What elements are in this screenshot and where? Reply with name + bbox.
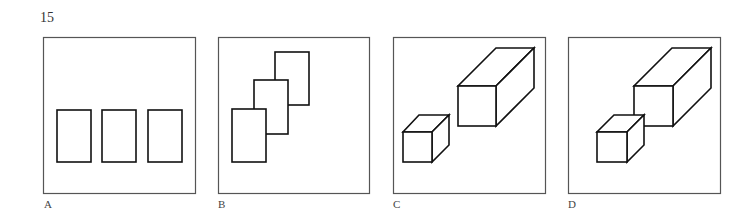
rectangle-left: [57, 110, 91, 162]
large-box-front: [458, 86, 496, 126]
panel-a: [44, 38, 196, 194]
rectangle-right: [148, 110, 182, 162]
small-cube: [403, 115, 449, 162]
panel-label-b: B: [218, 198, 225, 210]
large-box: [458, 48, 534, 126]
panel-label-c: C: [393, 198, 400, 210]
small-cube: [597, 115, 644, 162]
small-cube-front: [597, 132, 627, 162]
panel-c: [394, 38, 546, 194]
panel-d: [569, 38, 721, 194]
panel-b: [219, 38, 370, 194]
figure-canvas: [0, 0, 731, 216]
panel-label-a: A: [44, 198, 52, 210]
rectangle-front: [232, 109, 266, 162]
rectangle-middle: [102, 110, 136, 162]
small-cube-front: [403, 132, 432, 162]
panel-label-d: D: [568, 198, 576, 210]
